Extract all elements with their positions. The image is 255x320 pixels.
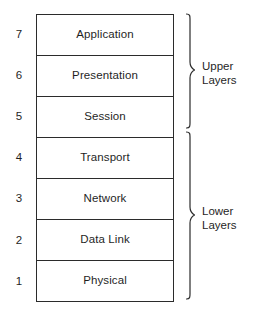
- layer-label-presentation: Presentation: [72, 70, 138, 82]
- layer-number-cell: 3: [8, 179, 30, 220]
- layer-number-column: 7 6 5 4 3 2 1: [8, 14, 30, 302]
- layer-number-5: 5: [16, 111, 22, 123]
- layer-row-physical: Physical: [37, 261, 173, 301]
- upper-group-brace-icon: [184, 12, 198, 130]
- layer-number-3: 3: [16, 193, 22, 205]
- layer-number-cell: 7: [8, 14, 30, 55]
- lower-group-brace-icon: [184, 130, 198, 302]
- layer-number-6: 6: [16, 70, 22, 82]
- lower-layers-label: Lower Layers: [202, 204, 252, 232]
- layer-row-transport: Transport: [37, 138, 173, 179]
- layer-number-4: 4: [16, 152, 22, 164]
- layer-number-cell: 2: [8, 220, 30, 261]
- layer-label-session: Session: [84, 111, 126, 123]
- layer-row-presentation: Presentation: [37, 56, 173, 97]
- layer-row-application: Application: [37, 15, 173, 56]
- layer-number-7: 7: [16, 29, 22, 41]
- layer-number-cell: 6: [8, 55, 30, 96]
- layer-number-2: 2: [16, 235, 22, 247]
- layer-label-network: Network: [84, 193, 127, 205]
- layer-label-physical: Physical: [83, 275, 127, 287]
- osi-layer-diagram: 7 6 5 4 3 2 1 Application Presentation S…: [0, 0, 255, 320]
- layer-label-data-link: Data Link: [80, 234, 129, 246]
- layer-number-cell: 4: [8, 137, 30, 178]
- layer-stack: Application Presentation Session Transpo…: [36, 14, 174, 302]
- layer-row-data-link: Data Link: [37, 220, 173, 261]
- layer-number-1: 1: [16, 276, 22, 288]
- layer-row-network: Network: [37, 179, 173, 220]
- layer-number-cell: 1: [8, 261, 30, 302]
- layer-row-session: Session: [37, 97, 173, 138]
- layer-number-cell: 5: [8, 96, 30, 137]
- upper-layers-label: Upper Layers: [202, 59, 252, 87]
- layer-label-transport: Transport: [80, 152, 130, 164]
- layer-label-application: Application: [76, 29, 133, 41]
